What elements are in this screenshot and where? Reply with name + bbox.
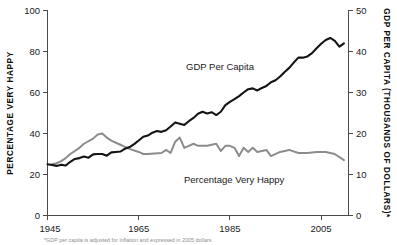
left-tick-label-80: 80	[29, 46, 40, 57]
left-tick-label-40: 40	[29, 128, 40, 139]
right-tick-label-20: 20	[356, 128, 367, 139]
x-tick-label-1965: 1965	[128, 223, 149, 234]
right-tick-label-30: 30	[356, 87, 367, 98]
left-axis-title: PERCENTAGE VERY HAPPY	[6, 51, 15, 174]
x-tick-label-1985: 1985	[219, 223, 240, 234]
right-tick-label-10: 10	[356, 169, 367, 180]
left-tick-label-0: 0	[35, 210, 40, 221]
right-tick-label-40: 40	[356, 46, 367, 57]
left-tick-label-20: 20	[29, 169, 40, 180]
left-axis-ticks: 0 20 40 60 80 100	[24, 5, 47, 221]
left-tick-label-100: 100	[24, 5, 40, 16]
chart-footnote: *GDP per capita is adjusted for inflatio…	[44, 237, 394, 244]
x-tick-label-1945: 1945	[39, 223, 60, 234]
left-tick-label-60: 60	[29, 87, 40, 98]
x-axis-ticks: 1945 1965 1985 2005	[39, 216, 331, 235]
right-tick-label-0: 0	[356, 210, 361, 221]
line-chart: 0 20 40 60 80 100 0 10 20 30 40 50	[0, 0, 397, 245]
annotation-percentage-very-happy: Percentage Very Happy	[184, 174, 285, 185]
series-line-percentage-very-happy	[52, 134, 344, 165]
chart-figure: 0 20 40 60 80 100 0 10 20 30 40 50	[0, 0, 397, 245]
right-axis-title: GDP PER CAPITA (THOUSANDS OF DOLLARS)*	[382, 8, 391, 218]
annotation-gdp-per-capita: GDP Per Capita	[186, 61, 255, 72]
right-tick-label-50: 50	[356, 5, 367, 16]
series-line-gdp-per-capita	[48, 38, 344, 166]
right-axis-ticks: 0 10 20 30 40 50	[349, 5, 367, 221]
x-tick-label-2005: 2005	[311, 223, 332, 234]
